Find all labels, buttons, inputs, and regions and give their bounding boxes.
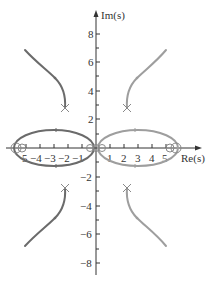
lower-right-branch bbox=[127, 188, 166, 246]
x-tick-label: 4 bbox=[149, 152, 155, 164]
upper-left-branch bbox=[25, 50, 65, 108]
y-tick-label: 2 bbox=[88, 113, 94, 125]
y-tick-label: 8 bbox=[88, 28, 94, 40]
y-tick-label: −2 bbox=[80, 171, 92, 183]
y-tick-label: −4 bbox=[80, 200, 92, 212]
x-tick-label: −2 bbox=[58, 152, 70, 164]
y-axis-arrow-icon bbox=[94, 10, 99, 17]
root-locus-chart: Im(s) Re(s) 8 6 4 2 −2 −4 −6 −8 5 −4 −3 … bbox=[0, 0, 210, 287]
lower-left-branch bbox=[25, 188, 65, 246]
x-tick-label: −3 bbox=[44, 152, 56, 164]
upper-right-branch bbox=[127, 50, 166, 108]
x-axis-label: Re(s) bbox=[181, 152, 205, 165]
y-tick-label: −8 bbox=[80, 257, 92, 269]
x-tick-label: 3 bbox=[135, 152, 141, 164]
y-tick-label: 6 bbox=[88, 56, 94, 68]
y-axis-label: Im(s) bbox=[101, 9, 125, 22]
y-tick-label: 4 bbox=[88, 85, 94, 97]
x-tick-label: 2 bbox=[121, 152, 127, 164]
x-axis-arrow-icon bbox=[195, 146, 202, 151]
y-tick-label: −6 bbox=[80, 228, 92, 240]
